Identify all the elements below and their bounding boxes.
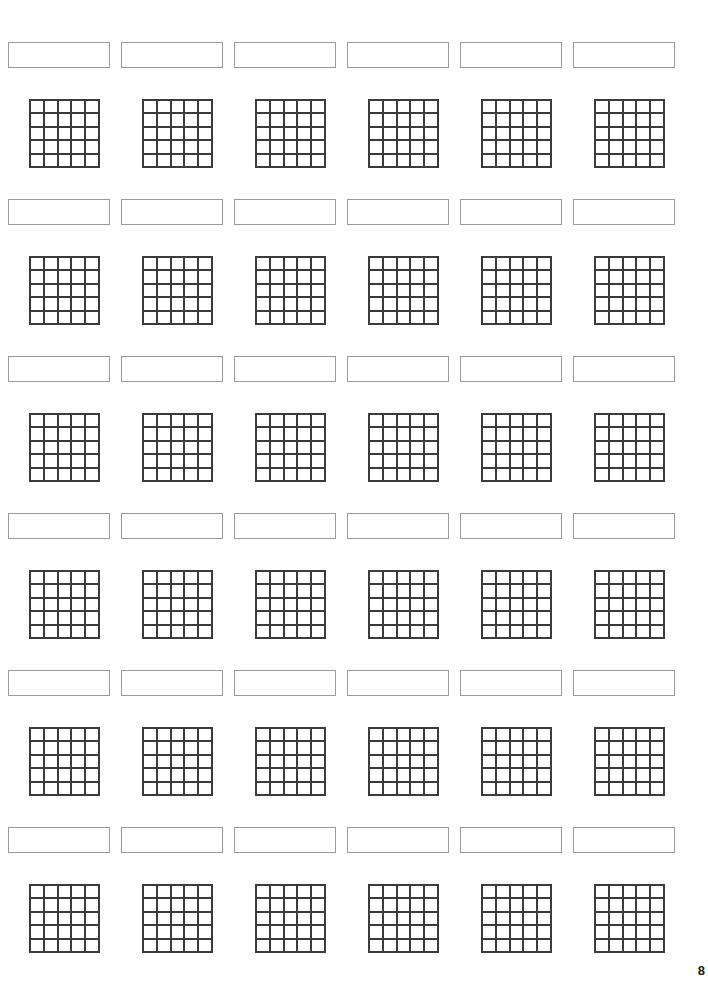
answer-label-box[interactable] bbox=[234, 827, 336, 853]
grid-cell[interactable] bbox=[398, 756, 410, 767]
grid-cell[interactable] bbox=[624, 298, 636, 309]
grid-cell[interactable] bbox=[398, 415, 410, 426]
grid-cell[interactable] bbox=[624, 155, 636, 166]
grid-cell[interactable] bbox=[637, 442, 649, 453]
grid-cell[interactable] bbox=[425, 899, 437, 910]
grid-cell[interactable] bbox=[610, 128, 622, 139]
grid-cell[interactable] bbox=[370, 612, 382, 623]
grid-cell[interactable] bbox=[257, 469, 269, 480]
grid-cell[interactable] bbox=[45, 155, 57, 166]
answer-label-box[interactable] bbox=[347, 356, 449, 382]
grid-cell[interactable] bbox=[511, 756, 523, 767]
grid-cell[interactable] bbox=[651, 312, 663, 323]
grid-cell[interactable] bbox=[59, 585, 71, 596]
grid-cell[interactable] bbox=[384, 428, 396, 439]
grid-cell[interactable] bbox=[86, 742, 98, 753]
grid-cell[interactable] bbox=[651, 742, 663, 753]
grid-cell[interactable] bbox=[144, 312, 156, 323]
grid-cell[interactable] bbox=[610, 729, 622, 740]
grid-cell[interactable] bbox=[257, 756, 269, 767]
grid-cell[interactable] bbox=[497, 769, 509, 780]
grid-cell[interactable] bbox=[524, 612, 536, 623]
grid-cell[interactable] bbox=[271, 271, 283, 282]
answer-label-box[interactable] bbox=[347, 199, 449, 225]
grid-cell[interactable] bbox=[538, 940, 550, 951]
grid-cell[interactable] bbox=[185, 298, 197, 309]
grid-cell[interactable] bbox=[370, 742, 382, 753]
grid-cell[interactable] bbox=[185, 783, 197, 794]
grid-cell[interactable] bbox=[483, 769, 495, 780]
grid-cell[interactable] bbox=[312, 141, 324, 152]
grid-cell[interactable] bbox=[651, 769, 663, 780]
grid-cell[interactable] bbox=[285, 742, 297, 753]
grid-cell[interactable] bbox=[257, 742, 269, 753]
grid-cell[interactable] bbox=[172, 271, 184, 282]
grid-cell[interactable] bbox=[298, 612, 310, 623]
grid-cell[interactable] bbox=[298, 899, 310, 910]
grid-cell[interactable] bbox=[538, 455, 550, 466]
grid-cell[interactable] bbox=[72, 769, 84, 780]
grid-cell[interactable] bbox=[398, 769, 410, 780]
grid-cell[interactable] bbox=[144, 742, 156, 753]
grid-cell[interactable] bbox=[86, 940, 98, 951]
grid-cell[interactable] bbox=[144, 585, 156, 596]
grid-cell[interactable] bbox=[59, 756, 71, 767]
grid-cell[interactable] bbox=[312, 926, 324, 937]
grid-cell[interactable] bbox=[31, 141, 43, 152]
grid-cell[interactable] bbox=[199, 913, 211, 924]
grid-cell[interactable] bbox=[610, 886, 622, 897]
grid-cell[interactable] bbox=[483, 271, 495, 282]
practice-grid[interactable] bbox=[481, 99, 552, 168]
grid-cell[interactable] bbox=[524, 599, 536, 610]
grid-cell[interactable] bbox=[86, 769, 98, 780]
grid-cell[interactable] bbox=[31, 258, 43, 269]
grid-cell[interactable] bbox=[624, 415, 636, 426]
grid-cell[interactable] bbox=[271, 926, 283, 937]
grid-cell[interactable] bbox=[86, 114, 98, 125]
grid-cell[interactable] bbox=[411, 271, 423, 282]
answer-label-box[interactable] bbox=[573, 199, 675, 225]
grid-cell[interactable] bbox=[425, 612, 437, 623]
grid-cell[interactable] bbox=[524, 114, 536, 125]
answer-label-box[interactable] bbox=[234, 356, 336, 382]
grid-cell[interactable] bbox=[72, 572, 84, 583]
grid-cell[interactable] bbox=[158, 585, 170, 596]
answer-label-box[interactable] bbox=[121, 42, 223, 68]
grid-cell[interactable] bbox=[158, 258, 170, 269]
grid-cell[interactable] bbox=[624, 913, 636, 924]
grid-cell[interactable] bbox=[257, 626, 269, 637]
grid-cell[interactable] bbox=[538, 415, 550, 426]
grid-cell[interactable] bbox=[172, 285, 184, 296]
grid-cell[interactable] bbox=[610, 926, 622, 937]
grid-cell[interactable] bbox=[185, 114, 197, 125]
grid-cell[interactable] bbox=[72, 415, 84, 426]
grid-cell[interactable] bbox=[425, 101, 437, 112]
grid-cell[interactable] bbox=[610, 258, 622, 269]
grid-cell[interactable] bbox=[596, 612, 608, 623]
grid-cell[interactable] bbox=[497, 599, 509, 610]
grid-cell[interactable] bbox=[483, 258, 495, 269]
grid-cell[interactable] bbox=[257, 913, 269, 924]
grid-cell[interactable] bbox=[31, 298, 43, 309]
practice-grid[interactable] bbox=[142, 727, 213, 796]
grid-cell[interactable] bbox=[45, 415, 57, 426]
grid-cell[interactable] bbox=[199, 128, 211, 139]
grid-cell[interactable] bbox=[483, 729, 495, 740]
grid-cell[interactable] bbox=[158, 940, 170, 951]
grid-cell[interactable] bbox=[610, 742, 622, 753]
grid-cell[interactable] bbox=[497, 612, 509, 623]
grid-cell[interactable] bbox=[172, 585, 184, 596]
grid-cell[interactable] bbox=[45, 612, 57, 623]
grid-cell[interactable] bbox=[144, 769, 156, 780]
grid-cell[interactable] bbox=[312, 783, 324, 794]
grid-cell[interactable] bbox=[370, 141, 382, 152]
grid-cell[interactable] bbox=[199, 455, 211, 466]
grid-cell[interactable] bbox=[31, 572, 43, 583]
grid-cell[interactable] bbox=[524, 128, 536, 139]
grid-cell[interactable] bbox=[384, 729, 396, 740]
grid-cell[interactable] bbox=[384, 626, 396, 637]
grid-cell[interactable] bbox=[483, 926, 495, 937]
grid-cell[interactable] bbox=[158, 769, 170, 780]
grid-cell[interactable] bbox=[596, 415, 608, 426]
grid-cell[interactable] bbox=[285, 428, 297, 439]
